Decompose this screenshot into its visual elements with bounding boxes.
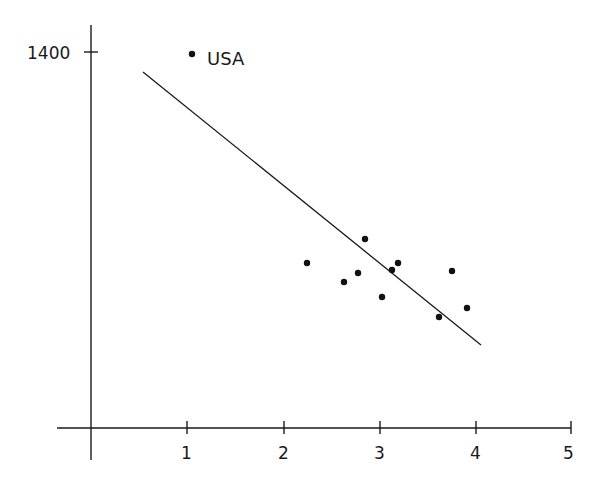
data-point — [355, 270, 361, 276]
x-tick-label-1: 1 — [181, 443, 192, 463]
scatter-chart: 1400 1 2 3 4 5 USA — [0, 0, 606, 480]
data-points — [189, 51, 470, 320]
data-point — [449, 268, 455, 274]
data-point — [389, 267, 395, 273]
x-tick-label-4: 4 — [470, 443, 481, 463]
data-point — [304, 260, 310, 266]
x-tick-label-2: 2 — [278, 443, 289, 463]
x-tick-label-3: 3 — [374, 443, 385, 463]
usa-annotation: USA — [207, 48, 245, 69]
data-point-usa — [189, 51, 195, 57]
trend-line — [143, 72, 481, 345]
data-point — [362, 236, 368, 242]
x-tick-label-5: 5 — [563, 443, 574, 463]
data-point — [379, 294, 385, 300]
data-point — [395, 260, 401, 266]
data-point — [436, 314, 442, 320]
data-point — [341, 279, 347, 285]
y-tick-label-1400: 1400 — [27, 43, 70, 63]
data-point — [464, 305, 470, 311]
